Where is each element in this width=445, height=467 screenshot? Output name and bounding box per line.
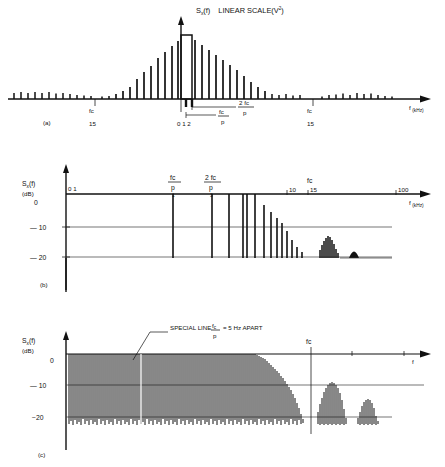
panel-c-annotation-text: SPECIAL LINE: [170, 324, 211, 331]
panel-a-y-arrowhead: [178, 16, 184, 25]
panel-a-2fc-p-num: 2 fc: [239, 99, 249, 106]
panel-c-annotation-den: p: [213, 332, 217, 339]
panel-c-fc-label: fc: [306, 338, 312, 345]
panel-b-small-lobe: [349, 252, 359, 259]
panel-b-y-label: Sx(f): [22, 180, 35, 189]
panel-b-ylevel-0: 0: [34, 199, 38, 206]
panel-b-origin-labels: 0 1: [68, 185, 77, 192]
panel-c-annotation-num: fc: [212, 322, 217, 330]
panel-c-ylevel-0: 0: [50, 357, 54, 364]
panel-c-ylevel--10: — 10: [30, 382, 46, 389]
panel-b-cluster-fc: [320, 236, 338, 258]
panel-a-2fc-p-den: p: [243, 109, 247, 116]
panel-a-tick-fc-left-sublabel: 15: [89, 120, 96, 127]
panel-a-fc-p-num: fc: [219, 108, 224, 115]
panel-c-lobe-2: [358, 399, 378, 425]
panel-b-xtick-15-label: 15: [310, 186, 317, 193]
panel-b-xtick-100-label: 100: [398, 186, 409, 193]
panel-a-lines-left-tail: [14, 92, 109, 99]
panel-b-y-arrowhead: [63, 164, 69, 173]
panel-c: Sx(f) (dB) f 0 — 10 −20: [22, 322, 431, 458]
panel-b-lines-flat: [173, 194, 255, 258]
panel-a-tick-fc-right-sublabel: 15: [307, 120, 314, 127]
panel-b-y-unit: (dB): [22, 190, 34, 197]
panel-a-tick-fc-right-label: fc: [307, 107, 312, 114]
panel-a: Sx(f)LINEAR SCALE(V2) f(kHz): [8, 6, 431, 127]
panel-a-lines-envelope-right: [195, 40, 265, 99]
panel-a-x-axis-label: f(kHz): [409, 104, 424, 113]
panel-a-label: (a): [43, 119, 51, 126]
panel-a-tick-fc-left-label: fc: [89, 107, 94, 114]
panel-b-lines-decay: [264, 205, 302, 258]
panel-c-annotation-post: = 5 Hz APART: [223, 324, 263, 331]
panel-c-y-label: Sx(f): [22, 337, 35, 346]
panel-c-x-arrowhead: [420, 351, 431, 358]
panel-b-fc-label: fc: [307, 177, 313, 184]
panel-b-label: (b): [40, 281, 48, 288]
panel-b-x-arrowhead: [420, 191, 431, 198]
panel-b-frac2-den: p: [209, 184, 213, 192]
panel-a-lines-right-tail: [272, 93, 392, 99]
panel-a-peak-marker: [181, 35, 192, 99]
panel-a-title: Sx(f)LINEAR SCALE(V2): [196, 6, 284, 16]
spectrum-figure: Sx(f)LINEAR SCALE(V2) f(kHz): [0, 0, 445, 467]
panel-a-x-arrowhead: [420, 96, 431, 103]
panel-a-origin-labels: 0 1 2: [177, 120, 191, 127]
panel-a-lines-envelope-left: [116, 41, 178, 99]
panel-b-frac1-num: fc: [170, 174, 176, 181]
panel-a-fc-p-den: p: [221, 118, 225, 125]
panel-c-y-unit: (dB): [22, 347, 34, 354]
panel-c-lobe-1: [318, 382, 346, 425]
panel-a-bracket-fc-p: fc p: [186, 108, 229, 125]
panel-b-ylevel--20: — 20: [30, 254, 46, 261]
panel-c-label: (c): [38, 451, 45, 458]
panel-c-x-axis-label: f: [412, 358, 414, 365]
panel-c-ylevel--20: −20: [32, 414, 44, 421]
panel-c-y-arrowhead: [63, 331, 69, 340]
figure-root: Sx(f)LINEAR SCALE(V2) f(kHz): [0, 0, 445, 467]
panel-c-dense-spectrum: [69, 354, 303, 425]
panel-b-xtick-10-label: 10: [289, 186, 296, 193]
panel-b-frac2-num: 2 fc: [205, 174, 217, 181]
panel-b-frac1-den: p: [171, 184, 175, 192]
panel-b-x-axis-label: f(kHz): [409, 199, 424, 208]
panel-b-ylevel--10: — 10: [30, 224, 46, 231]
panel-b: Sx(f) (dB) f(kHz) 0 — 10 — 20 0 1 fc p 1…: [22, 164, 431, 292]
